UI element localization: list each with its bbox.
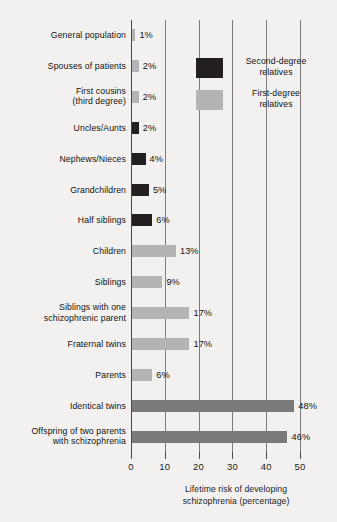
bar	[132, 122, 139, 134]
bar-value-label: 13%	[180, 246, 199, 256]
bar	[132, 184, 149, 196]
bar-row-label-line1: Offspring of two parents	[32, 426, 126, 436]
bar-value-label: 6%	[156, 370, 169, 380]
bar-value-label: 1%	[139, 30, 152, 40]
bar-row: Half siblings6%	[0, 207, 337, 233]
bar-row-label-line1: Grandchildren	[70, 184, 126, 194]
bar	[132, 307, 189, 319]
bar-row-label-line1: Siblings	[95, 277, 126, 287]
x-axis-tick-mark	[131, 452, 132, 459]
bar-value-label: 2%	[143, 61, 156, 71]
x-axis-title: Lifetime risk of developing schizophreni…	[151, 484, 321, 507]
bar-row-label: Identical twins	[14, 401, 126, 412]
schizophrenia-risk-bar-chart: 01020304050 General population1%Spouses …	[0, 0, 337, 522]
bar-row-label-line1: Fraternal twins	[68, 339, 126, 349]
bar-value-label: 2%	[143, 92, 156, 102]
bar	[132, 214, 152, 226]
legend-label-second-degree-line2: relatives	[259, 67, 292, 77]
bar-row-label-line1: Children	[93, 246, 126, 256]
bar-row-label-line1: Spouses of patients	[48, 61, 126, 71]
legend-label-second-degree: Second-degree relatives	[230, 56, 322, 78]
bar-row-label-line1: Parents	[95, 370, 126, 380]
bar	[132, 29, 135, 41]
legend-label-first-degree-line2: relatives	[259, 99, 292, 109]
bar-row-label: Spouses of patients	[14, 61, 126, 72]
bar-row: Offspring of two parentswith schizophren…	[0, 424, 337, 450]
x-axis-tick-mark	[199, 452, 200, 459]
bar-row: Nephews/Nieces4%	[0, 146, 337, 172]
bar	[132, 369, 152, 381]
bar-row-label: Siblings with oneschizophrenic parent	[14, 303, 126, 324]
bar-value-label: 17%	[193, 339, 212, 349]
x-axis-tick-mark	[266, 452, 267, 459]
bar	[132, 400, 294, 412]
x-axis-tick-label: 40	[254, 461, 278, 472]
legend-label-first-degree: First-degree relatives	[230, 88, 322, 110]
bar-row-label-line1: Nephews/Nieces	[59, 153, 126, 163]
bar-row-label: Half siblings	[14, 215, 126, 226]
bar-row-label-line1: Identical twins	[70, 401, 126, 411]
bar-row-label-line1: Siblings with one	[59, 303, 126, 313]
x-axis-tick-label: 30	[220, 461, 244, 472]
bar-value-label: 5%	[153, 185, 166, 195]
bar-row-label: Fraternal twins	[14, 339, 126, 350]
bar-row-label-line2: schizophrenic parent	[44, 313, 126, 323]
bar-value-label: 48%	[298, 401, 317, 411]
x-axis-title-line2: schizophrenia (percentage)	[183, 496, 290, 506]
bar-row-label-line1: Uncles/Aunts	[74, 122, 126, 132]
x-axis-tick-label: 0	[119, 461, 143, 472]
bar-row: Fraternal twins17%	[0, 331, 337, 357]
legend-swatch-first-degree-icon	[196, 90, 223, 110]
bar-row-label: Uncles/Aunts	[14, 122, 126, 133]
bar-row-label: First cousins(third degree)	[14, 86, 126, 107]
bar-row-label: Nephews/Nieces	[14, 153, 126, 164]
legend-swatch-second-degree-icon	[196, 58, 223, 78]
chart-legend: Second-degree relatives First-degree rel…	[196, 56, 324, 120]
bar-row-label: General population	[14, 30, 126, 41]
bar-row-label-line2: with schizophrenia	[53, 437, 126, 447]
bar-row-label: Parents	[14, 370, 126, 381]
bar-row-label-line1: Half siblings	[78, 215, 126, 225]
bar-row: Parents6%	[0, 362, 337, 388]
bar-row-label-line1: General population	[51, 30, 126, 40]
bar-value-label: 17%	[193, 308, 212, 318]
bar-row-label-line1: First cousins	[76, 86, 126, 96]
bar	[132, 91, 139, 103]
x-axis-tick-mark	[232, 452, 233, 459]
bar-row-label: Children	[14, 246, 126, 257]
bar-row: Children13%	[0, 238, 337, 264]
legend-label-second-degree-line1: Second-degree	[246, 56, 307, 66]
bar-value-label: 6%	[156, 215, 169, 225]
bar	[132, 153, 146, 165]
bar	[132, 245, 176, 257]
bar-value-label: 2%	[143, 123, 156, 133]
bar-row-label: Siblings	[14, 277, 126, 288]
bar-row-label: Grandchildren	[14, 184, 126, 195]
bar	[132, 431, 287, 443]
x-axis-tick-mark	[165, 452, 166, 459]
bar	[132, 60, 139, 72]
x-axis-tick-label: 50	[288, 461, 312, 472]
bar	[132, 338, 189, 350]
legend-label-first-degree-line1: First-degree	[252, 88, 300, 98]
x-axis-tick-label: 10	[153, 461, 177, 472]
bar-row: Grandchildren5%	[0, 177, 337, 203]
bar-row: Siblings9%	[0, 269, 337, 295]
bar-row-label-line2: (third degree)	[72, 97, 126, 107]
bar-row: Siblings with oneschizophrenic parent17%	[0, 300, 337, 326]
x-axis-tick-label: 20	[187, 461, 211, 472]
bar-value-label: 9%	[166, 277, 179, 287]
bar-row: Identical twins48%	[0, 393, 337, 419]
bar-row: General population1%	[0, 22, 337, 48]
legend-entry-second-degree: Second-degree relatives	[196, 56, 324, 88]
x-axis-title-line1: Lifetime risk of developing	[185, 484, 287, 494]
bar-row-label: Offspring of two parentswith schizophren…	[14, 426, 126, 447]
legend-entry-first-degree: First-degree relatives	[196, 88, 324, 120]
bar-value-label: 46%	[291, 432, 310, 442]
x-axis-tick-mark	[300, 452, 301, 459]
bar-value-label: 4%	[150, 154, 163, 164]
bar	[132, 276, 162, 288]
